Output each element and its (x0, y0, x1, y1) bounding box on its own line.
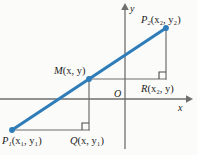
right-angle-marker-r (159, 72, 166, 79)
point-label-p2-coords: (x₂, y₂) (151, 14, 181, 25)
x-axis-label: x (178, 103, 182, 113)
origin-label: O (114, 89, 121, 99)
point-label-r-coords: (x₂, y) (147, 83, 173, 94)
point-label-p1-coords: (x₁, y₁) (12, 135, 42, 146)
point-dot-m (86, 76, 92, 82)
point-label-q-letter: Q (70, 135, 78, 146)
right-angle-marker-q (82, 123, 89, 130)
point-label-r: R(x₂, y) (141, 84, 174, 95)
point-label-p2: P2(x₂, y₂) (141, 15, 181, 26)
point-label-q: Q(x, y₁) (70, 136, 104, 147)
point-label-m: M(x, y) (54, 66, 86, 77)
y-axis-label: y (130, 4, 134, 14)
point-label-m-coords: (x, y) (63, 65, 86, 76)
x-axis-arrow-icon (186, 95, 193, 103)
point-label-q-coords: (x, y₁) (78, 135, 104, 146)
midpoint-diagram: P2(x₂, y₂) M(x, y) R(x₂, y) P1(x₁, y₁) Q… (0, 0, 197, 155)
right-angle-markers-group (82, 72, 166, 130)
point-dot-p1 (9, 127, 15, 133)
y-axis-arrow-icon (121, 3, 129, 10)
point-label-m-letter: M (54, 65, 63, 76)
point-label-p1: P1(x₁, y₁) (2, 136, 42, 147)
